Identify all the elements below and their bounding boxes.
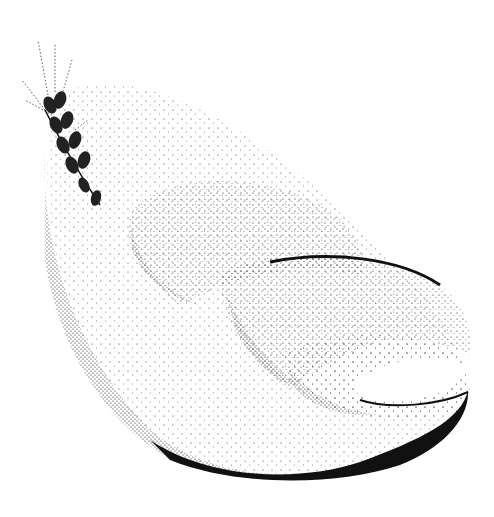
bread-and-wheat-illustration [0,0,494,517]
